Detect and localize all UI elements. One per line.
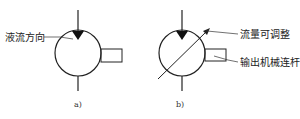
shaft-rectangle	[101, 49, 122, 62]
label-output-linkage: 输出机械连杆	[240, 56, 300, 68]
leader-line-adjustable-flow	[207, 31, 238, 34]
pump-symbols-diagram: 液流方向 a) 流量可调整 输出机械连杆 b)	[0, 0, 300, 119]
panel-a: 液流方向 a)	[5, 10, 122, 109]
leader-line-flow-direction	[44, 37, 73, 39]
label-adjustable-flow: 流量可调整	[240, 28, 290, 40]
flow-direction-triangle-icon	[176, 31, 188, 40]
flow-direction-triangle-icon	[72, 31, 84, 40]
panel-b: 流量可调整 输出机械连杆 b)	[158, 10, 300, 109]
label-flow-direction: 液流方向	[5, 31, 45, 43]
shaft-rectangle	[205, 49, 226, 61]
caption-b: b)	[176, 100, 184, 109]
caption-a: a)	[74, 100, 82, 109]
